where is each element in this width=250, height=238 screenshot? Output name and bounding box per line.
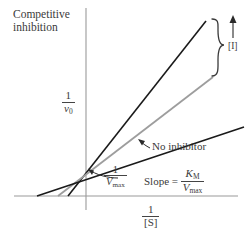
x-axis-denominator: [S] [142, 217, 159, 229]
plot-canvas [0, 0, 250, 238]
vmax-denominator-subscript: max [112, 181, 124, 189]
page-title: Competitive inhibition [13, 8, 93, 33]
slope-fraction: KM Vmax [181, 168, 205, 194]
slope-denominator-base: V [183, 181, 190, 193]
vmax-fraction: 1 Vmax [104, 164, 127, 189]
series-line-no-inhibitor [37, 127, 244, 196]
no-inhibitor-label: No inhibitor [152, 140, 206, 152]
vmax-intercept-label: 1 Vmax [104, 164, 127, 189]
slope-numerator-base: K [186, 167, 193, 179]
y-axis-denominator-subscript: 0 [69, 106, 73, 115]
x-axis-numerator: 1 [142, 204, 159, 217]
y-axis-denominator: v0 [62, 103, 75, 116]
y-axis-fraction: 1 v0 [62, 90, 75, 115]
inhibitor-concentration-label: [I] [228, 41, 238, 51]
x-axis-fraction: 1 [S] [142, 204, 159, 228]
vmax-numerator: 1 [104, 164, 127, 176]
lineweaver-burk-figure: Competitive inhibition 1 v0 1 [S] 1 Vmax… [0, 0, 250, 238]
slope-annotation: Slope = KM Vmax [144, 168, 204, 194]
vmax-denominator: Vmax [104, 176, 127, 189]
slope-denominator: Vmax [181, 182, 205, 195]
y-axis-label: 1 v0 [62, 90, 75, 115]
x-axis-label: 1 [S] [142, 204, 159, 228]
slope-numerator-subscript: M [193, 172, 200, 181]
inhibitor-brace [212, 19, 224, 76]
slope-equation-text: Slope = [144, 175, 178, 187]
slope-numerator: KM [181, 168, 205, 182]
inhibitor-increase-arrowhead [230, 15, 237, 23]
slope-denominator-subscript: max [190, 186, 203, 195]
